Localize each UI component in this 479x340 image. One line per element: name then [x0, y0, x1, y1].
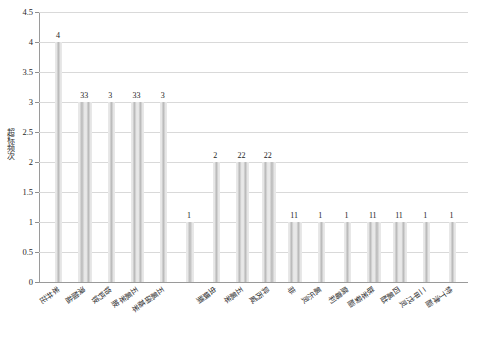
x-axis-label: 氯乐灵	[300, 284, 323, 304]
x-axis-label: 菲	[286, 284, 297, 295]
y-tick-label: 4	[29, 37, 33, 47]
bar	[449, 222, 456, 282]
bar	[295, 222, 302, 282]
bar-value-label: 1	[318, 211, 322, 220]
bar-value-label: 11	[369, 211, 377, 220]
bar	[373, 222, 380, 282]
bar-value-label: 22	[264, 151, 272, 160]
bar	[137, 102, 144, 282]
bar-value-label: 3	[108, 91, 112, 100]
bar-value-label: 22	[238, 151, 246, 160]
bar	[423, 222, 430, 282]
bar-value-label: 11	[395, 211, 403, 220]
bar-value-label: 1	[345, 211, 349, 220]
y-axis-title: 超标频次	[2, 128, 14, 160]
bar	[85, 102, 92, 282]
x-axis-labels-group: 苯并芘溴酸盐铬钙铵五氯苯胺五氯硝基苯虫螨腈五氯苯异丙威菲氯乐灵腐霉利联苯菊酯四氯…	[39, 284, 468, 340]
y-tick-label: 3	[29, 97, 33, 107]
bar-value-label: 33	[80, 91, 88, 100]
y-tick-label: 0	[29, 277, 33, 287]
bar	[160, 102, 167, 282]
plot-area: 4.543.532.521.510.50 4333333122222111111…	[39, 12, 468, 282]
bar-chart: 超标频次 4.543.532.521.510.50 43333331222221…	[0, 0, 479, 340]
bar-value-label: 1	[423, 211, 427, 220]
bar	[186, 222, 193, 282]
x-axis-label: 溴酸盐	[63, 284, 86, 304]
y-tick-label: 3.5	[22, 67, 33, 77]
gridline	[39, 282, 468, 283]
y-tick-label: 1	[29, 217, 33, 227]
bar-value-label: 33	[133, 91, 141, 100]
bar-value-label: 11	[290, 211, 298, 220]
bar	[108, 102, 115, 282]
x-axis-label: 虫螨腈	[195, 284, 218, 304]
y-tick-label: 1.5	[22, 187, 33, 197]
bar-value-label: 2	[213, 151, 217, 160]
bar-value-label: 4	[56, 31, 60, 40]
x-axis-label: 五氯苯	[221, 284, 244, 304]
y-tick-mark	[35, 282, 39, 283]
x-axis-label: 特丁津酯	[425, 284, 454, 308]
bar	[213, 162, 220, 282]
x-axis-label: 苯并芘	[37, 284, 60, 304]
bar-value-label: 1	[449, 211, 453, 220]
x-axis-label: 异丙威	[247, 284, 270, 304]
bar	[344, 222, 351, 282]
bars-group: 43333331222221111111111	[39, 12, 468, 282]
x-axis-label: 联苯菊酯	[346, 284, 375, 308]
y-tick-label: 4.5	[22, 7, 33, 17]
bar	[400, 222, 407, 282]
bar	[268, 162, 275, 282]
bar	[318, 222, 325, 282]
bar-value-label: 3	[161, 91, 165, 100]
x-axis-label: 二甲戊灵	[398, 284, 427, 308]
y-tick-label: 2.5	[22, 127, 33, 137]
bar	[55, 42, 62, 282]
y-tick-label: 0.5	[22, 247, 33, 257]
bar-value-label: 1	[187, 211, 191, 220]
y-tick-label: 2	[29, 157, 33, 167]
bar	[242, 162, 249, 282]
